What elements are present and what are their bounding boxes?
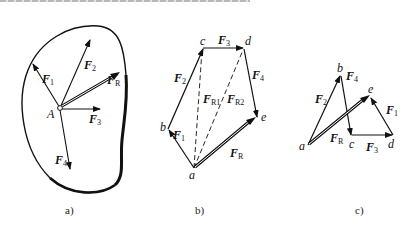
panel-b: c d b e a F1 F2 F3 F4 FR FR1 FR2 b) xyxy=(160,33,267,217)
svg-text:F4: F4 xyxy=(345,69,358,84)
panel-c: a b c d e F2 F4 F3 F1 FR c) xyxy=(299,61,398,217)
svg-text:a: a xyxy=(299,139,305,153)
svg-text:b: b xyxy=(337,61,343,75)
force-diagram: F1 F2 F3 F4 FR A a) c d b e a F1 F2 F3 F… xyxy=(0,0,403,226)
svg-text:c: c xyxy=(200,34,206,48)
svg-text:FR: FR xyxy=(229,146,244,161)
svg-text:F2: F2 xyxy=(173,71,186,86)
svg-text:F1: F1 xyxy=(385,103,398,118)
svg-text:d: d xyxy=(388,137,395,151)
point-a-marker xyxy=(58,106,63,111)
svg-text:F2: F2 xyxy=(314,92,327,107)
svg-text:F2: F2 xyxy=(83,58,96,73)
caption-c: c) xyxy=(355,204,364,217)
svg-text:F3: F3 xyxy=(365,140,378,155)
svg-text:b: b xyxy=(160,120,166,134)
svg-text:c: c xyxy=(349,137,355,151)
svg-text:e: e xyxy=(368,82,374,96)
svg-text:F1: F1 xyxy=(41,72,54,87)
svg-text:F4: F4 xyxy=(251,68,264,83)
force-f4-arrow xyxy=(341,76,351,135)
svg-text:FR: FR xyxy=(106,73,121,88)
svg-text:d: d xyxy=(245,34,252,48)
svg-text:F4: F4 xyxy=(54,153,67,168)
svg-text:F3: F3 xyxy=(217,33,230,48)
caption-b: b) xyxy=(195,204,205,217)
panel-a: F1 F2 F3 F4 FR A a) xyxy=(22,26,126,217)
svg-text:FR2: FR2 xyxy=(226,92,244,107)
svg-text:e: e xyxy=(261,110,267,124)
force-f1-arrow xyxy=(33,64,60,108)
caption-a: a) xyxy=(65,204,74,217)
svg-text:F1: F1 xyxy=(172,128,185,143)
svg-text:FR: FR xyxy=(329,131,344,146)
point-a-label: A xyxy=(46,107,55,121)
svg-text:F3: F3 xyxy=(88,112,101,127)
force-f4-arrow xyxy=(244,49,257,117)
svg-text:a: a xyxy=(189,168,195,182)
svg-text:FR1: FR1 xyxy=(202,92,220,107)
